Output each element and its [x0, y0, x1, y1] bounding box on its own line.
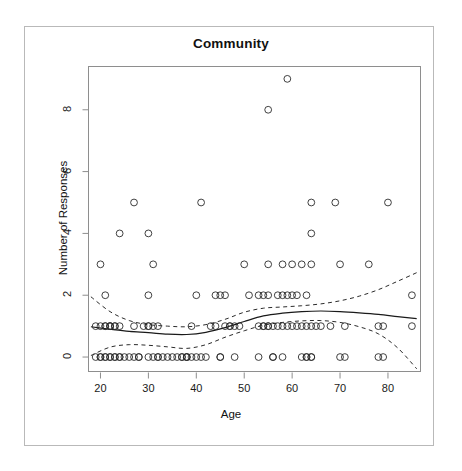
x-tick-label: 30 [138, 382, 158, 394]
y-tick-label: 8 [61, 101, 73, 117]
x-tick-label: 20 [90, 382, 110, 394]
x-tick-label: 80 [378, 382, 398, 394]
screenshot-root: Community Number of Responses Age 203040… [0, 0, 462, 471]
x-tick-label: 50 [234, 382, 254, 394]
confidence-bands [91, 273, 417, 369]
y-tick-label: 6 [61, 163, 73, 179]
axis-ticks [83, 110, 388, 379]
x-tick-label: 40 [186, 382, 206, 394]
y-tick-label: 0 [61, 348, 73, 364]
y-tick-label: 2 [61, 286, 73, 302]
x-tick-label: 60 [282, 382, 302, 394]
x-tick-label: 70 [330, 382, 350, 394]
data-points [92, 75, 415, 360]
y-tick-label: 4 [61, 224, 73, 240]
x-axis-title: Age [0, 408, 462, 420]
y-axis-title: Number of Responses [57, 138, 69, 298]
